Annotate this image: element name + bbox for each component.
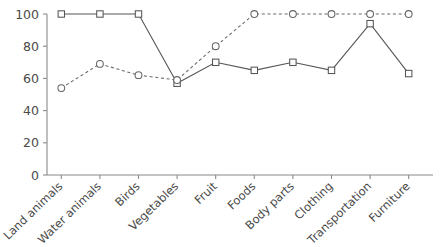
data-point-square: [97, 11, 103, 17]
data-point-square: [58, 11, 64, 17]
y-tick-label: 40: [23, 103, 39, 118]
y-tick-label: 80: [23, 39, 39, 54]
data-point-circle: [174, 77, 181, 84]
data-point-circle: [58, 85, 65, 92]
data-point-circle: [135, 72, 142, 79]
data-point-circle: [251, 11, 258, 18]
data-point-circle: [328, 11, 335, 18]
line-chart: 020406080100Land animalsWater animalsBir…: [0, 0, 441, 247]
y-tick-label: 60: [23, 71, 39, 86]
data-point-square: [367, 20, 373, 26]
x-tick-label: Foods: [225, 179, 259, 212]
data-point-square: [406, 70, 412, 76]
x-tick-label: Fruit: [192, 179, 220, 207]
data-point-circle: [367, 11, 374, 18]
series-line-square: [61, 14, 408, 83]
series-line-circle: [61, 14, 408, 88]
x-tick-label: Birds: [112, 179, 143, 209]
data-point-square: [251, 67, 257, 73]
data-point-circle: [97, 61, 104, 68]
data-point-circle: [405, 11, 412, 18]
data-point-circle: [290, 11, 297, 18]
data-point-circle: [212, 43, 219, 50]
y-tick-label: 100: [15, 7, 39, 22]
data-point-square: [135, 11, 141, 17]
y-tick-label: 0: [31, 168, 39, 183]
data-point-square: [213, 59, 219, 65]
chart-canvas: 020406080100Land animalsWater animalsBir…: [0, 0, 441, 247]
y-tick-label: 20: [23, 135, 39, 150]
data-point-square: [328, 67, 334, 73]
data-point-square: [290, 59, 296, 65]
x-tick-label: Furniture: [366, 179, 413, 225]
